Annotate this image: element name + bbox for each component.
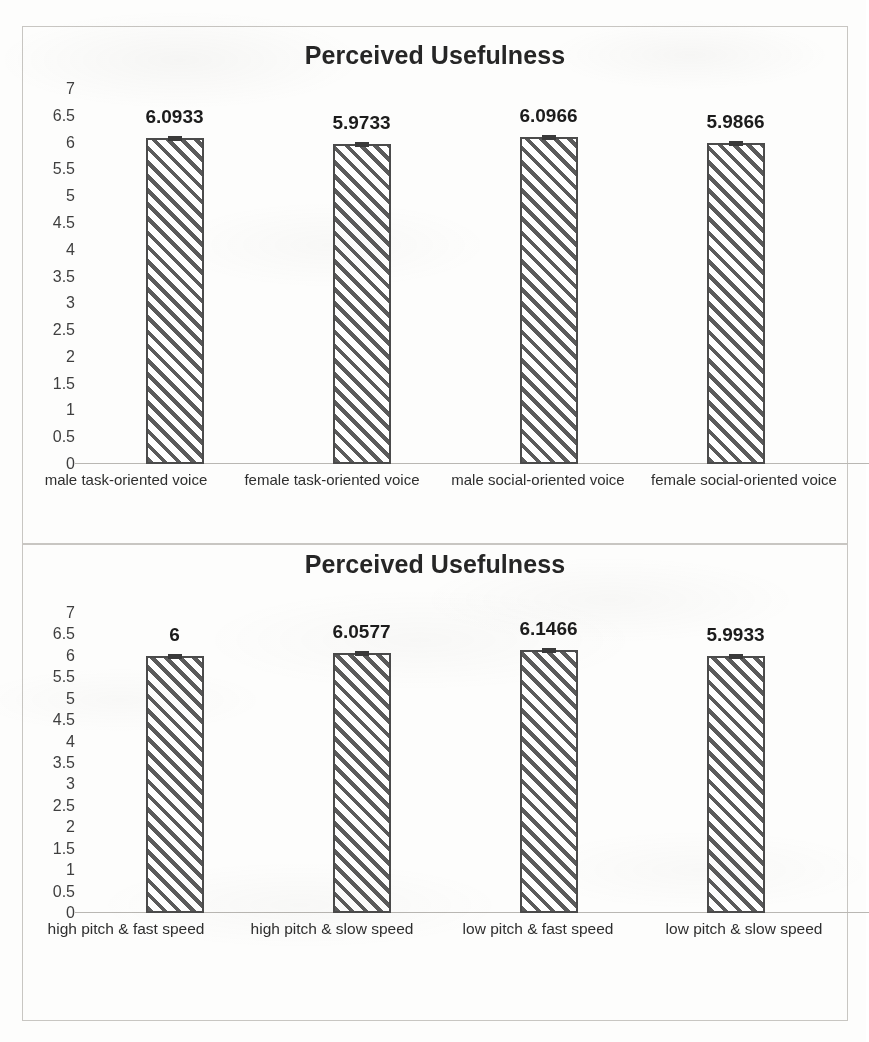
y-axis-tick: 3.5: [53, 755, 75, 771]
bar-slot: 6.0933: [81, 89, 268, 464]
y-axis-tick: 1: [66, 402, 75, 418]
y-axis-tick: 5.5: [53, 669, 75, 685]
y-axis-tick: 7: [66, 81, 75, 97]
bar-slot: 6.0577: [268, 613, 455, 913]
bar-chart-pitch-speed: Perceived Usefulness 76.565.554.543.532.…: [23, 545, 847, 1020]
chart-title: Perceived Usefulness: [23, 550, 847, 579]
y-axis-tick: 4.5: [53, 215, 75, 231]
error-bar-cap: [355, 142, 369, 147]
chart-panel-pitch-speed: Perceived Usefulness 76.565.554.543.532.…: [22, 544, 848, 1021]
y-axis-tick: 5.5: [53, 161, 75, 177]
y-axis-tick: 6: [66, 135, 75, 151]
bar[interactable]: 6.0577: [333, 653, 391, 913]
x-axis-category-label: male social-oriented voice: [435, 470, 641, 490]
y-axis-tick: 4: [66, 242, 75, 258]
bar-chart-voice-style: Perceived Usefulness 76.565.554.543.532.…: [23, 27, 847, 543]
x-axis-category-label: high pitch & fast speed: [23, 919, 229, 940]
y-axis-tick: 2.5: [53, 798, 75, 814]
bar-series: 6.09335.97336.09665.9866: [81, 89, 829, 464]
error-bar-cap: [729, 654, 743, 659]
y-axis-tick: 6: [66, 648, 75, 664]
y-axis-tick: 0.5: [53, 884, 75, 900]
error-bar-cap: [355, 651, 369, 656]
y-axis-tick: 4.5: [53, 712, 75, 728]
bar-slot: 6: [81, 613, 268, 913]
bar[interactable]: 5.9866: [707, 143, 765, 464]
x-axis-category-labels: high pitch & fast speedhigh pitch & slow…: [23, 919, 847, 940]
bar-value-label: 6.0966: [519, 105, 577, 127]
y-axis-tick: 3: [66, 295, 75, 311]
bar-value-label: 6.0933: [145, 106, 203, 128]
chart-panel-voice-style: Perceived Usefulness 76.565.554.543.532.…: [22, 26, 848, 544]
y-axis-tick: 5: [66, 691, 75, 707]
bar[interactable]: 6.0933: [146, 138, 204, 464]
bar-value-label: 5.9933: [706, 624, 764, 646]
y-axis-tick: 6.5: [53, 108, 75, 124]
bar[interactable]: 6.0966: [520, 137, 578, 464]
bar-value-label: 6: [169, 624, 180, 646]
y-axis-tick: 3: [66, 776, 75, 792]
x-axis-category-label: female task-oriented voice: [229, 470, 435, 490]
y-axis-tick: 1.5: [53, 376, 75, 392]
bar-slot: 5.9733: [268, 89, 455, 464]
y-axis-tick: 4: [66, 734, 75, 750]
bar-slot: 6.0966: [455, 89, 642, 464]
y-axis-tick-labels: 76.565.554.543.532.521.510.50: [29, 89, 75, 464]
y-axis-tick: 7: [66, 605, 75, 621]
y-axis-tick: 6.5: [53, 626, 75, 642]
x-axis-category-label: high pitch & slow speed: [229, 919, 435, 940]
chart-title: Perceived Usefulness: [23, 41, 847, 70]
plot-area: 76.565.554.543.532.521.510.50 66.05776.1…: [81, 613, 829, 913]
x-axis-category-label: low pitch & slow speed: [641, 919, 847, 940]
bar-value-label: 5.9866: [706, 111, 764, 133]
bar-value-label: 6.1466: [519, 618, 577, 640]
bar-slot: 6.1466: [455, 613, 642, 913]
bar[interactable]: 6.1466: [520, 650, 578, 913]
error-bar-cap: [542, 135, 556, 140]
y-axis-tick: 2: [66, 349, 75, 365]
x-axis-category-label: low pitch & fast speed: [435, 919, 641, 940]
y-axis-tick-labels: 76.565.554.543.532.521.510.50: [29, 613, 75, 913]
bar-series: 66.05776.14665.9933: [81, 613, 829, 913]
bar[interactable]: 5.9733: [333, 144, 391, 464]
bar[interactable]: 6: [146, 656, 204, 913]
bar-value-label: 5.9733: [332, 112, 390, 134]
y-axis-tick: 5: [66, 188, 75, 204]
y-axis-tick: 1: [66, 862, 75, 878]
bar[interactable]: 5.9933: [707, 656, 765, 913]
error-bar-cap: [729, 141, 743, 146]
x-axis-category-label: male task-oriented voice: [23, 470, 229, 490]
plot-area: 76.565.554.543.532.521.510.50 6.09335.97…: [81, 89, 829, 464]
y-axis-tick: 1.5: [53, 841, 75, 857]
bar-slot: 5.9933: [642, 613, 829, 913]
error-bar-cap: [168, 136, 182, 141]
y-axis-tick: 2: [66, 819, 75, 835]
error-bar-cap: [542, 648, 556, 653]
x-axis-category-label: female social-oriented voice: [641, 470, 847, 490]
bar-value-label: 6.0577: [332, 621, 390, 643]
y-axis-tick: 0.5: [53, 429, 75, 445]
x-axis-category-labels: male task-oriented voicefemale task-orie…: [23, 470, 847, 490]
y-axis-tick: 3.5: [53, 269, 75, 285]
bar-slot: 5.9866: [642, 89, 829, 464]
error-bar-cap: [168, 654, 182, 659]
y-axis-tick: 2.5: [53, 322, 75, 338]
